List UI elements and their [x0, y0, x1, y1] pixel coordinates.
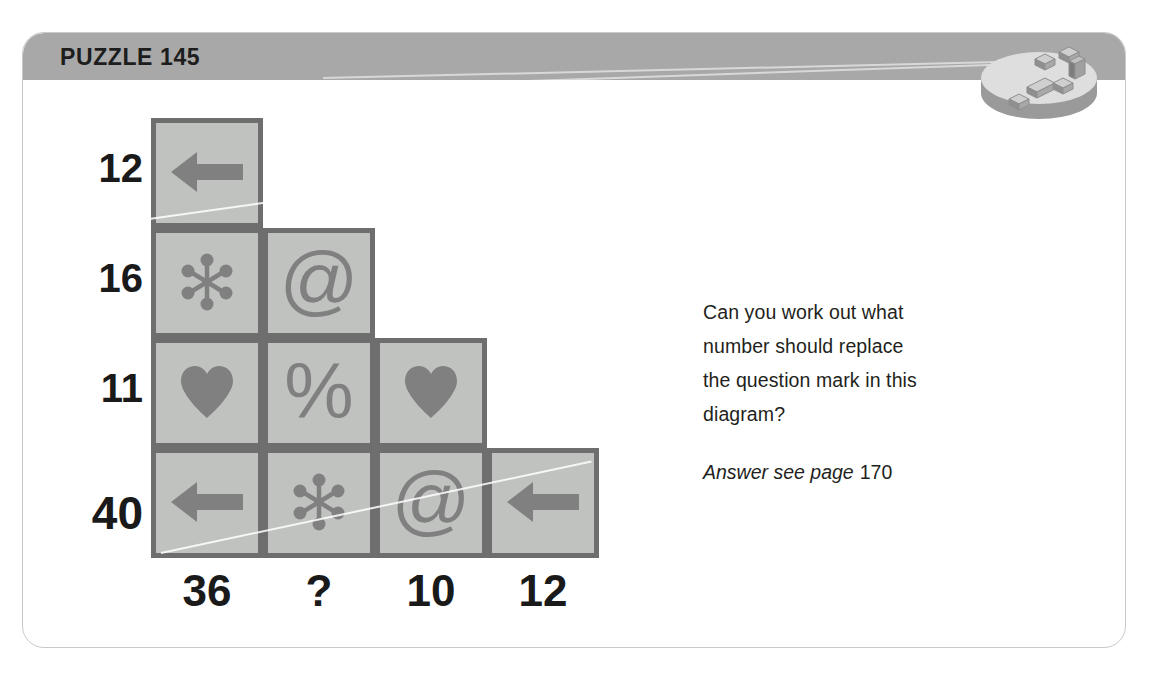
grid-cell — [487, 448, 599, 558]
grid-cell — [375, 338, 487, 448]
column-label: ? — [263, 566, 375, 616]
column-labels: 36 ? 10 12 — [151, 566, 611, 626]
arrow-left-icon — [171, 150, 243, 197]
grid-cell: @ — [263, 228, 375, 338]
column-label: 10 — [375, 566, 487, 616]
arrow-left-icon — [171, 480, 243, 527]
grid-cell — [151, 338, 263, 448]
grid-cell — [151, 118, 263, 228]
header-light-streak — [323, 59, 1083, 78]
blocks-disc-badge-icon — [973, 32, 1105, 139]
puzzle-card: PUZZLE 145 — [22, 32, 1126, 648]
row-label: 11 — [55, 366, 143, 411]
grid-cell — [151, 448, 263, 558]
at-sign-icon: @ — [279, 241, 358, 319]
column-label: 36 — [151, 566, 263, 616]
row-labels: 12 16 11 40 — [39, 118, 143, 558]
answer-reference-page: 170 — [860, 461, 893, 483]
asterisk-icon — [289, 472, 349, 535]
grid-cell: % — [263, 338, 375, 448]
grid-cell: @ — [375, 448, 487, 558]
question-line: the question mark in this — [703, 363, 1033, 397]
puzzle-body: 12 16 11 40 — [23, 80, 1126, 648]
column-label: 12 — [487, 566, 599, 616]
answer-reference: Answer see page170 — [703, 461, 1033, 484]
heart-icon — [178, 363, 236, 424]
puzzle-header-band: PUZZLE 145 — [23, 33, 1126, 80]
question-line: diagram? — [703, 397, 1033, 431]
question-block: Can you work out what number should repl… — [703, 295, 1033, 484]
question-line: number should replace — [703, 329, 1033, 363]
asterisk-icon — [177, 252, 237, 315]
grid-cell — [263, 448, 375, 558]
puzzle-grid: @ % — [151, 118, 601, 558]
at-sign-icon: @ — [391, 461, 470, 539]
answer-reference-prefix: Answer see page — [703, 461, 854, 483]
grid-cell — [151, 228, 263, 338]
row-label: 16 — [55, 256, 143, 301]
heart-icon — [402, 363, 460, 424]
question-line: Can you work out what — [703, 295, 1033, 329]
percent-icon: % — [284, 352, 353, 430]
row-label: 12 — [55, 146, 143, 191]
page-title: PUZZLE 145 — [60, 44, 200, 71]
arrow-left-icon — [507, 480, 579, 527]
row-label: 40 — [55, 486, 143, 540]
